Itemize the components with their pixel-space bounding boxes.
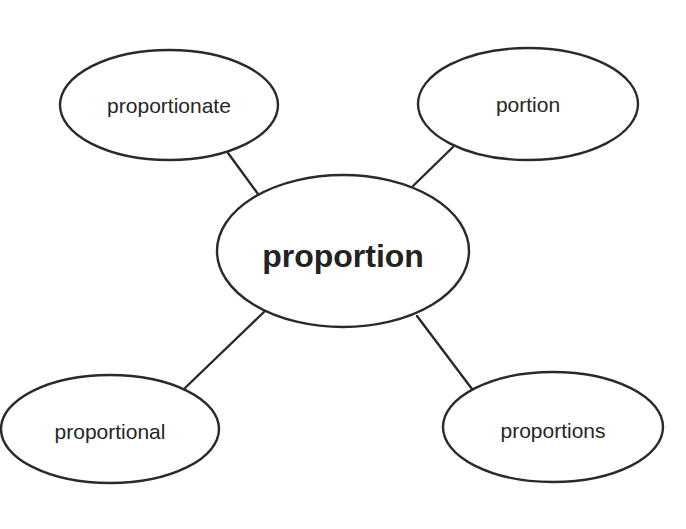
node-portion: portion: [418, 48, 638, 160]
center-node: proportion: [217, 175, 469, 327]
node-proportions: proportions: [443, 372, 663, 482]
connector-proportions: [417, 316, 472, 389]
connector-proportionate: [228, 153, 258, 194]
node-label: portion: [496, 93, 560, 116]
node-proportional: proportional: [1, 375, 219, 483]
node-label: proportional: [55, 420, 166, 443]
connector-portion: [413, 147, 453, 186]
connector-proportional: [185, 311, 265, 388]
node-proportionate: proportionate: [60, 50, 278, 160]
node-label: proportions: [500, 419, 605, 442]
center-label: proportion: [262, 238, 424, 274]
word-web-diagram: proportion proportionate portion proport…: [0, 0, 686, 529]
node-label: proportionate: [107, 94, 231, 117]
